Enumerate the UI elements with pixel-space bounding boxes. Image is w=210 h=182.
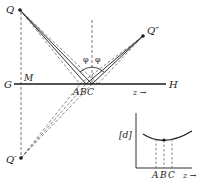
label-q-double-prime: Q″: [147, 25, 159, 36]
inset-tick-b: B: [159, 170, 167, 180]
label-c: C: [87, 87, 94, 97]
inset-ylabel: [d]: [119, 130, 132, 140]
label-z-axis: z →: [132, 88, 147, 97]
inset-xlabel: z →: [182, 171, 197, 180]
label-m: M: [23, 73, 34, 83]
point-q-double-prime: [141, 34, 145, 38]
label-q-prime: Q′: [6, 154, 17, 165]
point-q: [18, 8, 22, 12]
label-b: B: [79, 87, 87, 97]
ray-a-q2: [80, 36, 143, 84]
ray-c2-q2: [98, 36, 143, 84]
ray-q1-a: [21, 84, 80, 158]
label-a: A: [72, 87, 80, 97]
label-q: Q: [6, 4, 14, 15]
inset-minimum-point: [162, 138, 165, 141]
inset-tick-c: C: [168, 170, 175, 180]
label-g: G: [4, 79, 12, 90]
label-h: H: [168, 79, 178, 90]
point-q-prime: [19, 156, 23, 160]
label-phi-left: φ: [83, 55, 89, 64]
inset-graph: [d] A B C z →: [119, 113, 197, 180]
inset-curve: [143, 131, 192, 140]
inset-tick-a: A: [151, 170, 159, 180]
label-phi-right: φ: [95, 55, 101, 64]
reflection-diagram: Q Q′ Q″ G H M A B C φ φ z → [d] A B C z …: [0, 0, 210, 182]
